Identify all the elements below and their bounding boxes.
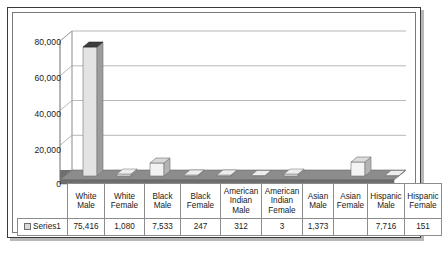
table-value-row: Series1 75,416 1,080 7,533 247 312 3 1,3… xyxy=(18,219,442,236)
bar-black-male xyxy=(150,158,170,176)
chart-data-table: White Male White Female Black Male xyxy=(17,183,442,236)
bar-white-male xyxy=(83,42,103,176)
header-line-3: Female xyxy=(268,206,295,215)
table-corner-cell xyxy=(18,184,68,219)
chart-inner-frame: 80,000 60,000 40,000 20,000 0 xyxy=(12,12,416,233)
y-axis-label-40000: 40,000 xyxy=(15,109,61,119)
chart-window-frame: 80,000 60,000 40,000 20,000 0 xyxy=(7,7,421,238)
header-line-2: Indian xyxy=(230,196,252,205)
table-value-white-female: 1,080 xyxy=(105,219,145,236)
header-line-1: Hispanic xyxy=(407,192,438,201)
header-line-2: Male xyxy=(154,201,172,210)
table-value-asian-female xyxy=(334,219,368,236)
header-line-1: American xyxy=(224,187,259,196)
chart-data-table-wrapper: White Male White Female Black Male xyxy=(17,183,415,236)
bar-hispanic-male xyxy=(351,157,371,176)
series-legend-swatch-icon xyxy=(24,223,31,230)
header-line-1: Black xyxy=(190,192,210,201)
table-value-hispanic-female: 151 xyxy=(405,219,442,236)
header-line-1: American xyxy=(265,187,300,196)
table-value-asian-male: 1,373 xyxy=(303,219,334,236)
chart-3d-canvas xyxy=(13,13,413,203)
table-header-white-female: White Female xyxy=(105,184,145,219)
header-line-3: Male xyxy=(232,206,250,215)
table-header-row: White Male White Female Black Male xyxy=(18,184,442,219)
y-axis-label-80000: 80,000 xyxy=(15,37,61,47)
table-header-hispanic-female: Hispanic Female xyxy=(405,184,442,219)
header-line-2: Female xyxy=(409,201,436,210)
header-line-2: Male xyxy=(377,201,395,210)
table-value-black-female: 247 xyxy=(181,219,221,236)
table-value-american-indian-male: 312 xyxy=(221,219,262,236)
y-axis-label-60000: 60,000 xyxy=(15,73,61,83)
header-line-2: Indian xyxy=(271,196,293,205)
table-value-hispanic-male: 7,716 xyxy=(368,219,405,236)
series-legend-label: Series1 xyxy=(33,222,61,231)
table-header-asian-male: Asian Male xyxy=(303,184,334,219)
header-line-2: Female xyxy=(187,201,214,210)
header-line-1: White xyxy=(114,192,135,201)
table-header-american-indian-male: American Indian Male xyxy=(221,184,262,219)
table-value-american-indian-female: 3 xyxy=(262,219,303,236)
header-line-2: Male xyxy=(77,201,95,210)
plot-area: 80,000 60,000 40,000 20,000 0 xyxy=(13,13,413,181)
table-value-white-male: 75,416 xyxy=(68,219,105,236)
table-header-white-male: White Male xyxy=(68,184,105,219)
y-axis-label-20000: 20,000 xyxy=(15,145,61,155)
table-header-black-male: Black Male xyxy=(145,184,181,219)
table-value-black-male: 7,533 xyxy=(145,219,181,236)
series-legend-cell: Series1 xyxy=(18,219,68,236)
header-line-2: Female xyxy=(337,201,364,210)
header-line-1: Asian xyxy=(308,192,328,201)
table-header-hispanic-male: Hispanic Male xyxy=(368,184,405,219)
table-header-american-indian-female: American Indian Female xyxy=(262,184,303,219)
header-line-1: White xyxy=(76,192,97,201)
header-line-2: Female xyxy=(111,201,138,210)
header-line-1: Black xyxy=(152,192,172,201)
table-header-asian-female: Asian Female xyxy=(334,184,368,219)
header-line-1: Hispanic xyxy=(370,192,401,201)
header-line-1: Asian xyxy=(340,192,360,201)
header-line-2: Male xyxy=(309,201,327,210)
table-header-black-female: Black Female xyxy=(181,184,221,219)
